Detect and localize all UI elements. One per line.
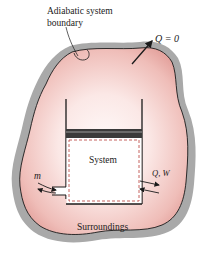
piston-highlight <box>66 131 142 133</box>
heat-zero-label: Q = 0 <box>155 33 179 44</box>
mass-flow-label: m <box>34 171 41 181</box>
boundary-label-line2: boundary <box>47 18 83 28</box>
heat-work-label: Q, W <box>152 168 170 178</box>
inlet-pipe-mouth <box>55 187 68 195</box>
system-label: System <box>89 155 118 165</box>
boundary-label-line1: Adiabatic system <box>47 6 113 16</box>
surroundings-label: Surroundings <box>77 222 129 232</box>
adiabatic-system-diagram: Adiabatic system boundary Q = 0 System m… <box>0 0 208 267</box>
system-interior <box>67 137 142 204</box>
piston <box>66 129 142 138</box>
